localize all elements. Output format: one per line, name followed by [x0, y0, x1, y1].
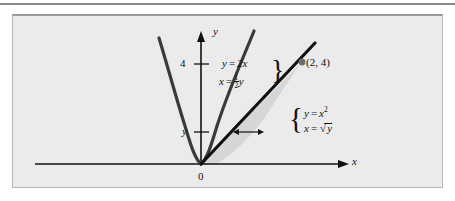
fraction-denominator: 2 [234, 82, 239, 90]
equation-curve-y-x2: y=x2 [304, 106, 328, 119]
y-axis-label: y [213, 26, 218, 37]
eq-equals-2: = [224, 75, 234, 87]
eq-equals: = [227, 57, 237, 69]
brace-right-line-group: } [271, 56, 284, 84]
brace-left-curve-group: { [289, 104, 303, 133]
x-axis [35, 160, 349, 168]
point-2-4-marker [299, 59, 306, 66]
tick-label-4: 4 [180, 58, 186, 69]
square-root-group: √y [319, 123, 332, 134]
figure-panel: y x 0 4 y (2, 4) y=2x x=12y } { y=x2 x=√… [12, 14, 443, 188]
fraction-one-half: 12 [234, 74, 239, 91]
point-label-2-4: (2, 4) [306, 57, 330, 68]
eq-equals-3: = [309, 107, 319, 119]
equation-curve-x-sqrt-y: x=√y [304, 123, 332, 134]
origin-label: 0 [198, 171, 204, 182]
eq-var-y: y [239, 75, 244, 87]
equation-line-y-2x: y=2x [222, 58, 248, 69]
eq-exponent-2: 2 [324, 105, 328, 114]
equation-line-x-half-y: x=12y [219, 74, 244, 91]
top-horizontal-rule [0, 3, 455, 5]
tick-label-y: y [182, 126, 187, 137]
y-axis [197, 31, 205, 164]
eq-rhs-2x: 2x [237, 57, 247, 69]
eq-equals-4: = [309, 122, 319, 134]
graph-plot [13, 16, 442, 186]
page-root: y x 0 4 y (2, 4) y=2x x=12y } { y=x2 x=√… [0, 0, 455, 201]
radical-overbar [324, 123, 332, 124]
x-axis-label: x [352, 156, 357, 167]
